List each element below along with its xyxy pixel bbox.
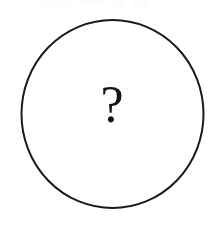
figure-canvas: ? <box>0 0 224 226</box>
question-mark: ? <box>0 79 224 131</box>
